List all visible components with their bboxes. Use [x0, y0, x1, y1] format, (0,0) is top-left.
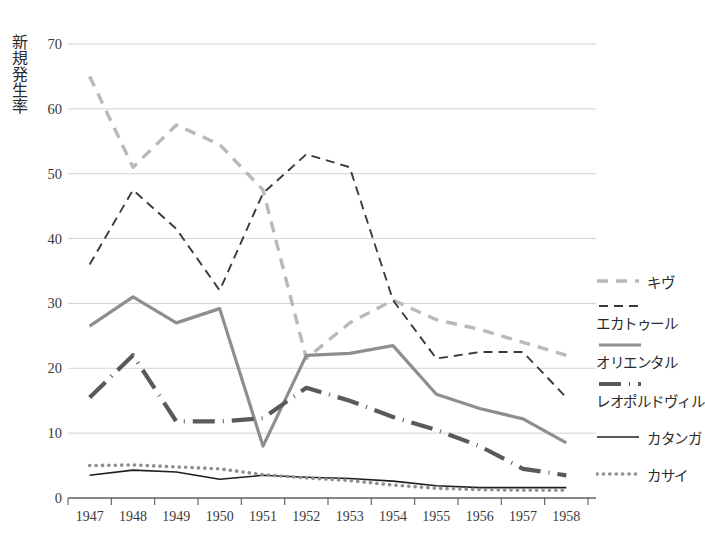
legend-label: エカトゥール [596, 312, 677, 333]
legend-item-2[interactable]: オリエンタル [596, 339, 705, 378]
y-axis-tick-label: 50 [16, 165, 62, 182]
x-axis-tick-label: 1956 [466, 509, 494, 525]
y-axis-tick-label: 30 [16, 295, 62, 312]
dashed-dark-swatch [598, 301, 642, 311]
y-axis-tick-label: 60 [16, 100, 62, 117]
dashed-light-swatch [596, 276, 640, 286]
legend-item-3[interactable]: レオポルドヴィル [596, 378, 705, 417]
legend-item-0[interactable]: キヴ [596, 262, 705, 300]
x-axis-tick-label: 1952 [292, 509, 320, 525]
x-axis-tick-label: 1957 [509, 509, 537, 525]
y-axis-tick-label: 70 [16, 36, 62, 53]
x-axis-tick-label: 1947 [76, 509, 104, 525]
legend-label: カタンガ [647, 427, 701, 448]
series-line-1 [90, 154, 567, 397]
x-axis-tick-label: 1949 [162, 509, 190, 525]
legend-label: レオポルドヴィル [596, 390, 704, 411]
chart-container: 新規発生率 706050403020100 194719481949195019… [0, 0, 705, 546]
x-axis-tick-label: 1953 [336, 509, 364, 525]
y-axis-tick-label: 0 [16, 490, 62, 507]
dotted-gray-swatch [596, 469, 640, 479]
y-axis-tick-labels: 706050403020100 [10, 0, 62, 546]
legend-label: オリエンタル [596, 351, 677, 372]
chart-legend: キヴエカトゥールオリエンタルレオポルドヴィルカタンガカサイ [596, 262, 705, 491]
x-axis-tick-label: 1948 [119, 509, 147, 525]
x-axis-tick-label: 1951 [249, 509, 277, 525]
legend-item-1[interactable]: エカトゥール [596, 300, 705, 339]
x-axis-tick-label: 1950 [206, 509, 234, 525]
x-axis-tick-label: 1955 [422, 509, 450, 525]
legend-label: カサイ [647, 464, 688, 485]
data-series-layer [90, 76, 567, 490]
y-axis-tick-label: 20 [16, 360, 62, 377]
solid-black-swatch [596, 432, 640, 442]
legend-label: キヴ [647, 271, 674, 292]
series-line-3 [90, 355, 567, 475]
gridlines [68, 44, 596, 498]
series-line-0 [90, 76, 567, 358]
legend-item-5[interactable]: カサイ [596, 457, 705, 491]
legend-item-4[interactable]: カタンガ [596, 417, 705, 457]
y-axis-tick-label: 40 [16, 230, 62, 247]
y-axis-tick-label: 10 [16, 425, 62, 442]
series-line-2 [90, 297, 567, 446]
solid-gray-swatch [598, 340, 642, 350]
x-axis-tick-label: 1954 [379, 509, 407, 525]
axis-lines [68, 498, 596, 505]
series-line-4 [90, 470, 567, 488]
dashdot-swatch [598, 379, 642, 389]
x-axis-tick-label: 1958 [552, 509, 580, 525]
